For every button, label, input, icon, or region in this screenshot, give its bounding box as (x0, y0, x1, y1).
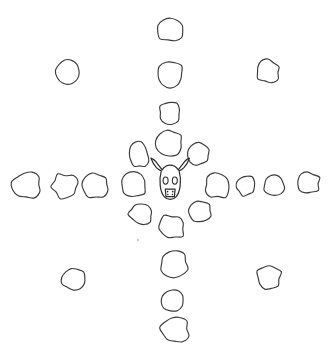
paper-speck-artifact (137, 239, 139, 241)
stone-s2 (161, 251, 188, 278)
stone-e1 (205, 173, 229, 198)
stone-arrangement-canvas (0, 0, 333, 355)
skull-muzzle (165, 189, 175, 196)
skull-right-eye-socket (172, 177, 177, 184)
stone-n4 (157, 18, 182, 41)
stone-n1 (155, 130, 181, 156)
stone-w2 (82, 173, 108, 198)
stone-s3 (161, 290, 183, 311)
skull-nostril-right (172, 191, 174, 193)
skull-nostril-left (167, 191, 169, 193)
stone-d-se (189, 201, 212, 222)
stone-d-ne (188, 142, 210, 165)
medicine-wheel-figure (0, 0, 333, 355)
skull-tooth-mark-right (172, 194, 174, 196)
stone-n3 (158, 62, 182, 88)
stone-w1 (122, 172, 146, 197)
stone-c-se (257, 266, 282, 290)
skull-left-eye-socket (163, 177, 168, 184)
paper-speck (137, 239, 139, 241)
skull-tooth-mark-left (167, 194, 169, 196)
stone-n2 (160, 102, 180, 124)
